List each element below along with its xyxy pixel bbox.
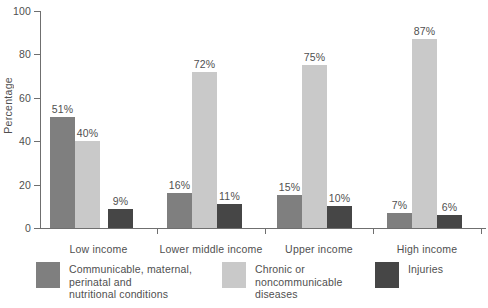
x-axis-line — [40, 228, 486, 229]
bar-group-low-income: 51% 40% 9% Low income — [40, 11, 157, 228]
y-tick-label: 20 — [19, 179, 31, 191]
bar-value-label: 10% — [329, 192, 351, 204]
y-tick-label: 60 — [19, 92, 31, 104]
bar-value-label: 7% — [392, 199, 408, 211]
y-tick-label: 40 — [19, 135, 31, 147]
legend-swatch-icon — [36, 262, 60, 288]
legend-item-communicable[interactable]: Communicable, maternal, perinatal and nu… — [36, 262, 216, 301]
bar-fill — [327, 206, 352, 228]
bar-value-label: 87% — [414, 25, 436, 37]
bar-fill — [75, 141, 100, 228]
y-tick-mark — [34, 228, 41, 229]
legend-item-injuries[interactable]: Injuries — [375, 262, 485, 288]
bar-value-label: 6% — [442, 201, 458, 213]
x-tick-separator — [265, 228, 266, 234]
x-tick-separator — [481, 228, 482, 234]
bar-value-label: 72% — [194, 58, 216, 70]
bar-fill — [217, 204, 242, 228]
bar-value-label: 16% — [169, 179, 191, 191]
category-label-high-income: High income — [373, 243, 481, 255]
y-tick-label: 0 — [25, 222, 31, 234]
category-label-low-income: Low income — [40, 243, 157, 255]
legend-label: Injuries — [408, 262, 443, 276]
bar-fill — [302, 65, 327, 228]
x-tick-separator — [157, 228, 158, 234]
bar-value-label: 51% — [52, 103, 74, 115]
bar-fill — [192, 72, 217, 228]
chart-legend: Communicable, maternal, perinatal and nu… — [0, 262, 488, 308]
bar-group-lower-middle-income: 16% 72% 11% Lower middle income — [157, 11, 265, 228]
bar-value-label: 40% — [77, 127, 99, 139]
category-label-upper-income: Upper income — [265, 243, 373, 255]
bar-value-label: 75% — [304, 51, 326, 63]
bar-value-label: 9% — [113, 195, 129, 207]
y-tick-label: 80 — [19, 48, 31, 60]
bar-fill — [167, 193, 192, 228]
legend-swatch-icon — [222, 262, 246, 288]
bar-fill — [50, 117, 75, 228]
legend-swatch-icon — [375, 262, 399, 288]
legend-label: Chronic or noncommunicable diseases — [255, 262, 342, 301]
bar-group-high-income: 7% 87% 6% High income — [373, 11, 481, 228]
bar-fill — [412, 39, 437, 228]
bar-fill — [387, 213, 412, 228]
bar-value-label: 15% — [279, 181, 301, 193]
category-label-lower-middle-income: Lower middle income — [151, 243, 271, 255]
bar-fill — [277, 195, 302, 228]
plot-area: 100 80 60 40 20 0 5 — [40, 11, 486, 228]
legend-item-chronic[interactable]: Chronic or noncommunicable diseases — [222, 262, 372, 301]
y-axis-title: Percentage — [2, 77, 16, 134]
bar-chart-figure: Percentage 100 80 60 40 20 0 — [0, 0, 488, 308]
x-tick-separator — [373, 228, 374, 234]
bar-fill — [108, 209, 133, 229]
legend-label: Communicable, maternal, perinatal and nu… — [69, 262, 192, 301]
y-tick-label: 100 — [13, 5, 31, 17]
bar-group-upper-income: 15% 75% 10% Upper income — [265, 11, 373, 228]
bar-fill — [437, 215, 462, 228]
bar-value-label: 11% — [219, 190, 240, 202]
